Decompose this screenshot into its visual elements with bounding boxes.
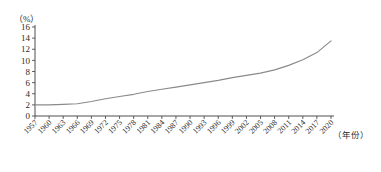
y-tick-label: 2 — [26, 100, 31, 110]
x-tick-label: 1990 — [177, 118, 195, 136]
x-tick-label: 2017 — [304, 118, 322, 136]
x-tick-label: 1981 — [134, 118, 152, 136]
x-tick-label: 1972 — [92, 118, 110, 136]
x-tick-label: 1975 — [106, 118, 124, 136]
x-tick-label: 1957 — [22, 118, 40, 136]
line-chart: （%） 0246810121416 1957196019631966196919… — [0, 0, 381, 172]
y-tick-label: 4 — [26, 89, 31, 99]
x-tick-label: 1996 — [205, 118, 223, 136]
y-tick-label: 0 — [26, 111, 31, 121]
x-tick-label: 1987 — [163, 118, 181, 136]
x-tick-label: 1969 — [78, 118, 96, 136]
x-tick-label: 1984 — [149, 118, 167, 136]
y-tick-label: 12 — [21, 44, 30, 54]
x-axis-ticks: 1957196019631966196919721975197819811984… — [22, 116, 336, 136]
y-axis-ticks: 0246810121416 — [21, 22, 35, 121]
x-tick-label: 1978 — [120, 118, 138, 136]
x-axis-unit-label: （年份） — [333, 128, 369, 140]
x-tick-label: 1966 — [64, 118, 82, 136]
y-tick-label: 16 — [21, 22, 31, 32]
x-tick-label: 1999 — [219, 118, 237, 136]
chart-plot-area: 0246810121416 19571960196319661969197219… — [0, 0, 381, 172]
y-tick-label: 8 — [26, 67, 31, 77]
x-tick-label: 2005 — [247, 118, 265, 136]
x-tick-label: 2014 — [290, 118, 308, 136]
y-tick-label: 10 — [21, 56, 31, 66]
x-tick-label: 1963 — [50, 118, 68, 136]
x-tick-label: 2011 — [276, 118, 293, 135]
x-tick-label: 1960 — [36, 118, 54, 136]
y-tick-label: 14 — [21, 33, 31, 43]
data-series-line — [35, 41, 331, 105]
x-tick-label: 2002 — [233, 118, 251, 136]
y-tick-label: 6 — [26, 78, 31, 88]
x-tick-label: 1993 — [191, 118, 209, 136]
x-tick-label: 2008 — [261, 118, 279, 136]
